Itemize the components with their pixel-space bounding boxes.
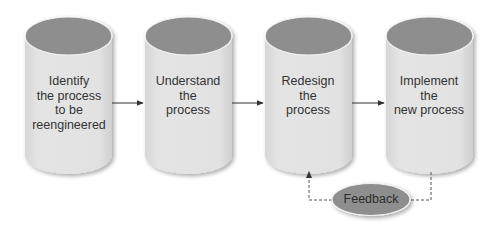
feedback-line-from-step4	[410, 172, 431, 200]
step-label-3: Redesign the process	[264, 74, 352, 118]
step-label-1: Identify the process to be reengineered	[25, 74, 113, 132]
step-label-2: Understand the process	[144, 74, 232, 118]
feedback-line-to-step3	[309, 176, 332, 200]
feedback-label: Feedback	[331, 192, 411, 206]
step-label-4: Implement the new process	[385, 74, 473, 118]
reengineering-process-diagram: Identify the process to be reengineered …	[0, 0, 504, 231]
